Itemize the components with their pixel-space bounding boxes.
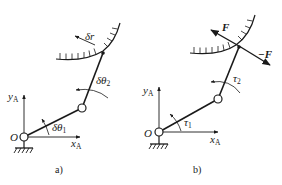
base-pivot (20, 133, 28, 141)
origin-label: O (10, 131, 18, 143)
caption-b: b) (193, 164, 201, 176)
y-axis-label: yA (7, 90, 19, 104)
elbow-joint (214, 95, 222, 103)
force-label: F (221, 21, 230, 33)
base-pivot (155, 128, 163, 136)
angle-2-arc (76, 89, 108, 98)
panel-b: O xA yA τ1 τ2 F −F b) (142, 15, 273, 176)
angle-1-label: δθ1 (52, 121, 67, 135)
angle-2-label: δθ2 (96, 74, 111, 88)
y-axis-label: yA (142, 84, 154, 98)
displacement-label: δr (85, 30, 95, 42)
end-effector-point (237, 45, 241, 49)
origin-label: O (144, 127, 152, 139)
x-axis-label: xA (70, 137, 82, 151)
elbow-joint (78, 104, 86, 112)
panel-a: O xA yA δθ1 δθ2 δr a) (7, 23, 120, 176)
caption-a: a) (55, 164, 63, 176)
reaction-force-label: −F (258, 48, 273, 60)
torque-1-label: τ1 (184, 116, 192, 130)
x-axis-label: xA (209, 133, 221, 147)
torque-2-label: τ2 (233, 72, 241, 86)
